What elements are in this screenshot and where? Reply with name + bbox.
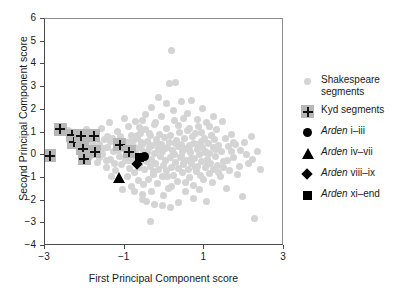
legend-swatch [299,125,317,139]
x-tick-label: 3 [273,251,293,262]
data-point [198,129,205,136]
y-tick-mark [40,132,44,133]
data-point [182,179,189,186]
data-point [213,126,220,133]
chart-legend: Shakespeare segmentsKyd segmentsArden i–… [299,74,408,209]
x-tick-mark [203,245,204,249]
data-point [148,104,155,111]
data-point [199,105,206,112]
data-point [146,130,153,137]
data-point [257,166,264,173]
legend-gray-circle-icon [304,78,311,85]
legend-circle-icon [303,128,312,137]
x-axis-title: First Principal Component score [44,272,283,284]
data-point [123,145,136,158]
data-point [212,146,219,153]
data-point [113,172,125,183]
data-point [155,94,162,101]
legend-item[interactable]: Shakespeare segments [299,74,408,97]
data-point [185,166,192,173]
legend-triangle-icon [302,148,314,159]
data-point [167,204,174,211]
legend-item[interactable]: Kyd segments [299,104,408,118]
data-point [209,179,216,186]
data-point [206,123,213,130]
legend-swatch [299,104,317,118]
y-tick-mark [40,63,44,64]
legend-label: Arden i–iii [321,125,365,137]
data-point [188,97,195,104]
data-point [186,125,193,132]
y-tick-mark [40,222,44,223]
plot-area [44,18,283,245]
data-point [154,180,161,187]
data-point [111,160,118,167]
legend-item[interactable]: Arden xi–end [299,188,408,202]
y-tick-mark [40,41,44,42]
data-point [236,163,243,170]
scatter-plot-figure: −4−3−2−10123456 −3−113 First Principal C… [0,0,408,292]
x-tick-label: 1 [193,251,213,262]
data-point [170,107,177,114]
legend-item[interactable]: Arden iv–vii [299,146,408,160]
legend-item[interactable]: Arden i–iii [299,125,408,139]
data-point [241,139,248,146]
legend-swatch [299,74,317,88]
data-point [44,149,56,162]
data-point [139,196,146,203]
legend-swatch [299,167,317,181]
data-point [222,135,229,142]
legend-swatch [299,188,317,202]
data-point [148,188,155,195]
y-tick-mark [40,177,44,178]
legend-item[interactable]: Arden viii–ix [299,167,408,181]
data-point [156,144,163,151]
data-point [147,218,154,225]
data-point [186,147,193,154]
data-point [182,188,189,195]
data-point [180,160,187,167]
data-point [168,47,175,54]
data-point [218,148,225,155]
data-point [100,145,107,152]
data-point [228,148,235,155]
y-tick-mark [40,86,44,87]
data-point [208,132,215,139]
data-point [210,113,217,120]
legend-diamond-icon [301,168,312,179]
legend-label: Shakespeare segments [321,74,408,97]
data-point [164,173,171,180]
data-point [127,138,134,145]
data-point [175,122,182,129]
data-point [212,153,219,160]
data-point [103,164,110,171]
data-point [87,129,100,142]
data-point [181,135,188,142]
data-point [203,198,210,205]
x-tick-label: −3 [34,251,54,262]
x-tick-mark [44,245,45,249]
data-point [180,115,187,122]
data-point [172,140,179,147]
data-point [178,98,185,105]
data-point [178,153,185,160]
data-point [152,119,159,126]
data-point [163,125,170,132]
y-tick-mark [40,18,44,19]
x-tick-mark [283,245,284,249]
data-point [168,183,175,190]
data-point [74,129,87,142]
legend-label: Kyd segments [321,104,384,116]
data-point [103,157,110,164]
legend-label: Arden xi–end [321,188,380,200]
data-point [151,201,158,208]
legend-plus-square-icon [301,105,314,118]
legend-label: Arden iv–vii [321,146,373,158]
data-point [119,186,126,193]
legend-square-icon [303,191,312,200]
data-point [219,118,226,125]
data-point [159,202,166,209]
y-tick-mark [40,154,44,155]
data-point [172,79,179,86]
data-point [234,171,241,178]
